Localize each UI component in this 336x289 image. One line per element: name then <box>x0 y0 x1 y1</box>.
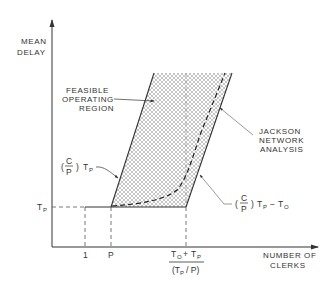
y-axis-label-2: DELAY <box>17 48 46 57</box>
svg-text:/ P): / P) <box>186 265 199 275</box>
delay-vs-clerks-diagram: MEAN DELAY NUMBER OF CLERKS T P 1 P T O … <box>0 0 336 289</box>
svg-text:(: ( <box>235 199 238 209</box>
svg-text:P: P <box>263 204 267 210</box>
svg-text:(: ( <box>61 162 64 172</box>
svg-text:(T: (T <box>172 265 180 275</box>
lower-bound-label: ( C P ) T P − T O <box>235 193 289 214</box>
upper-bound-pointer <box>96 167 118 178</box>
y-tick-tp: T <box>37 202 42 212</box>
svg-text:T: T <box>191 249 196 259</box>
svg-text:C: C <box>66 156 72 166</box>
x-axis-label-2: CLERKS <box>270 261 306 270</box>
svg-text:O: O <box>284 204 289 210</box>
feasible-operating-region <box>111 73 232 207</box>
x-tick-1: 1 <box>83 250 88 260</box>
svg-text:P: P <box>66 167 72 177</box>
x-tick-third-fraction: T O + T P (T P / P) <box>169 249 204 276</box>
svg-text:P: P <box>89 167 93 173</box>
jackson-label-1: JACKSON <box>259 127 301 136</box>
svg-text:): ) <box>251 199 254 209</box>
svg-text:T: T <box>83 162 88 172</box>
y-tick-tp-sub: P <box>43 207 47 213</box>
svg-text:T: T <box>171 249 176 259</box>
x-tick-p: P <box>108 250 114 260</box>
feasible-label-1: FEASIBLE <box>66 86 109 95</box>
jackson-label-3: ANALYSIS <box>260 145 303 154</box>
svg-text:P: P <box>180 270 184 276</box>
svg-text:): ) <box>76 162 79 172</box>
feasible-label-3: REGION <box>79 104 114 113</box>
jackson-pointer <box>220 108 253 135</box>
upper-bound-label: ( C P ) T P <box>61 156 93 177</box>
svg-text:−: − <box>270 199 275 209</box>
svg-text:P: P <box>241 204 247 214</box>
jackson-label-2: NETWORK <box>259 136 304 145</box>
x-axis-label-1: NUMBER OF <box>263 251 316 260</box>
lower-bound-pointer <box>200 175 232 204</box>
svg-text:T: T <box>278 199 283 209</box>
svg-text:O: O <box>177 254 182 260</box>
svg-text:+: + <box>183 249 188 259</box>
svg-text:T: T <box>257 199 262 209</box>
feasible-label-2: OPERATING <box>62 95 114 104</box>
svg-text:C: C <box>241 193 247 203</box>
y-axis-label-1: MEAN <box>21 37 47 46</box>
svg-text:P: P <box>197 254 201 260</box>
